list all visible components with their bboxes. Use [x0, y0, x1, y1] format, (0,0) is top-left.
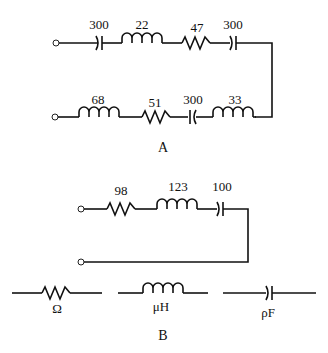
terminal-a-bottom	[52, 114, 58, 120]
resistor-legend-symbol	[42, 287, 70, 299]
inductor-legend-symbol	[143, 283, 183, 293]
capacitor-legend-symbol	[266, 286, 272, 300]
value-label: 51	[149, 95, 162, 110]
inductor-symbol-a2	[122, 33, 162, 43]
circuit-diagram: 300 22 47 300 68 51 300 33 A	[0, 0, 328, 353]
inductor-symbol-a8	[213, 107, 253, 117]
value-label: 300	[223, 17, 243, 32]
value-label: 22	[136, 17, 149, 32]
resistor-symbol-b1	[107, 203, 135, 215]
unit-label-microhenry: μH	[153, 299, 169, 314]
legend: Ω μH ρF B	[12, 283, 316, 343]
value-label: 300	[183, 92, 203, 107]
caption-a: A	[158, 140, 169, 155]
resistor-symbol-a3	[182, 37, 210, 49]
unit-label-picofarad: ρF	[261, 305, 275, 320]
value-label: 33	[229, 92, 242, 107]
capacitor-symbol-a4	[230, 36, 236, 50]
capacitor-symbol-a7	[190, 110, 196, 124]
inductor-symbol-a5	[79, 107, 119, 117]
value-label: 123	[168, 179, 188, 194]
terminal-b-bottom	[78, 259, 84, 265]
inductor-symbol-b2	[157, 199, 197, 209]
unit-label-ohm: Ω	[52, 301, 62, 316]
circuit-b: 98 123 100	[78, 179, 248, 265]
wire	[84, 209, 248, 262]
value-label: 98	[115, 183, 128, 198]
terminal-b-top	[78, 206, 84, 212]
caption-b: B	[158, 328, 167, 343]
value-label: 47	[191, 20, 205, 35]
value-label: 300	[89, 17, 109, 32]
resistor-symbol-a6	[142, 111, 170, 123]
circuit-a: 300 22 47 300 68 51 300 33 A	[52, 17, 272, 155]
value-label: 68	[92, 92, 105, 107]
value-label: 100	[212, 179, 232, 194]
capacitor-symbol-b3	[217, 202, 223, 216]
terminal-a-top	[53, 40, 59, 46]
